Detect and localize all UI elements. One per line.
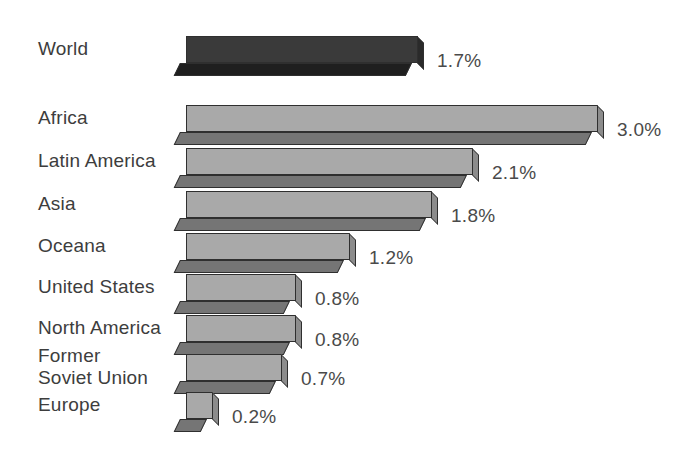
bar-side-face: [295, 315, 302, 349]
bar-side-face: [212, 392, 219, 426]
bar-bottom-face: [173, 175, 466, 188]
bar-value-label: 1.7%: [437, 51, 482, 71]
bar-front-face: [186, 191, 432, 218]
bar-front-face: [186, 354, 282, 381]
bar-category-label: Latin America: [38, 150, 156, 172]
bar-value-label: 1.2%: [369, 248, 414, 268]
bar-bottom-face: [173, 301, 289, 314]
bar-front-face: [186, 315, 296, 342]
bar-category-label: United States: [38, 276, 155, 298]
bar-category-label: Europe: [38, 394, 100, 416]
bar-side-face: [281, 354, 288, 388]
bar-value-label: 2.1%: [492, 163, 537, 183]
bar-shape: [186, 233, 363, 273]
bar-value-label: 0.7%: [301, 369, 346, 389]
bar-chart: World1.7%Africa3.0%Latin America2.1%Asia…: [0, 0, 687, 450]
bar-shape: [186, 392, 226, 432]
bar-bottom-face: [173, 419, 206, 432]
bar-category-label: Oceana: [38, 235, 106, 257]
bar-shape: [186, 274, 309, 314]
bar-value-label: 0.2%: [232, 407, 277, 427]
bar-side-face: [597, 105, 604, 139]
bar-shape: [186, 36, 431, 76]
bar-front-face: [186, 148, 473, 175]
bar-shape: [186, 148, 486, 188]
bar-bottom-face: [173, 260, 343, 273]
bar-category-label: World: [38, 38, 88, 60]
bar-value-label: 0.8%: [315, 289, 360, 309]
bar-shape: [186, 354, 295, 394]
bar-side-face: [349, 233, 356, 267]
bar-value-label: 1.8%: [451, 206, 496, 226]
bar-category-label: Former Soviet Union: [38, 345, 148, 389]
bar-category-label: North America: [38, 317, 161, 339]
bar-front-face: [186, 392, 213, 419]
bar-value-label: 0.8%: [315, 330, 360, 350]
bar-bottom-face: [173, 63, 411, 76]
bar-bottom-face: [173, 132, 591, 145]
bar-front-face: [186, 36, 418, 63]
bar-side-face: [295, 274, 302, 308]
bar-bottom-face: [173, 218, 425, 231]
bar-front-face: [186, 233, 350, 260]
bar-shape: [186, 191, 445, 231]
bar-shape: [186, 315, 309, 355]
bar-front-face: [186, 274, 296, 301]
bar-side-face: [417, 36, 424, 70]
bar-shape: [186, 105, 611, 145]
bar-category-label: Africa: [38, 107, 88, 129]
bar-side-face: [431, 191, 438, 225]
bar-value-label: 3.0%: [617, 120, 662, 140]
bar-category-label: Asia: [38, 193, 76, 215]
bar-front-face: [186, 105, 598, 132]
bar-side-face: [472, 148, 479, 182]
